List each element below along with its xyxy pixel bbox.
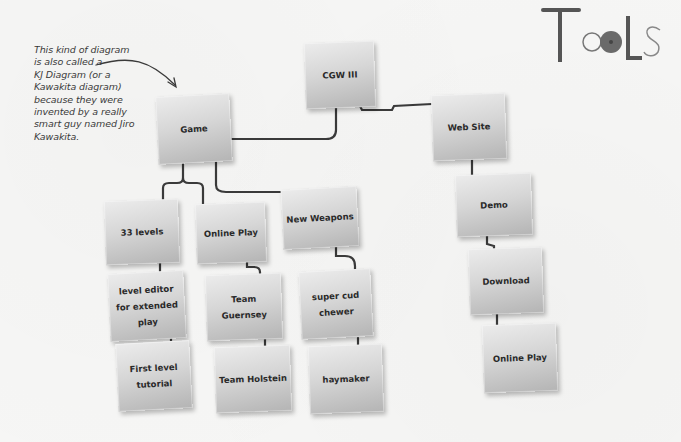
node-cgw-iii: CGW III [304, 41, 376, 109]
node-level-editor: level editor for extended play [107, 270, 186, 342]
node-new-weapons: New Weapons [280, 186, 359, 250]
node-game: Game [155, 93, 232, 165]
node-first-level-tutorial: First level tutorial [115, 340, 192, 412]
node-super-cud-chewer: super cud chewer [298, 268, 373, 340]
curved-arrow-icon [96, 60, 175, 85]
node-label: Game [180, 120, 208, 137]
node-haymaker: haymaker [308, 344, 384, 415]
node-team-holstein: Team Holstein [214, 345, 292, 414]
node-label: Online Play [493, 349, 548, 367]
node-demo: Demo [455, 173, 533, 238]
node-label: Online Play [204, 224, 259, 242]
node-online-play-web: Online Play [482, 323, 558, 394]
node-label: CGW III [322, 66, 358, 83]
node-team-guernsey: Team Guernsey [205, 273, 283, 342]
node-33-levels: 33 levels [104, 199, 180, 266]
node-label: haymaker [322, 370, 370, 388]
node-download: Download [468, 247, 544, 316]
node-label: super cud chewer [303, 286, 369, 321]
node-label: First level tutorial [120, 358, 188, 393]
node-label: Web Site [447, 118, 490, 135]
node-web-site: Web Site [431, 93, 507, 162]
node-label: Team Holstein [219, 370, 287, 388]
node-label: Team Guernsey [209, 290, 278, 324]
node-label: Demo [480, 197, 508, 214]
node-label: level editor for extended play [112, 280, 182, 331]
node-label: Download [482, 272, 530, 290]
node-label: 33 levels [120, 223, 163, 240]
node-online-play-game: Online Play [195, 202, 267, 264]
node-label: New Weapons [286, 208, 354, 228]
